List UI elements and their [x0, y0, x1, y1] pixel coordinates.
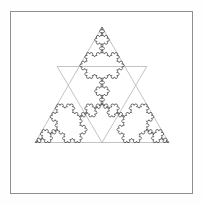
figure-root: Koch Snowflake: [0, 0, 202, 205]
koch-snowflake-figure: [0, 0, 202, 205]
